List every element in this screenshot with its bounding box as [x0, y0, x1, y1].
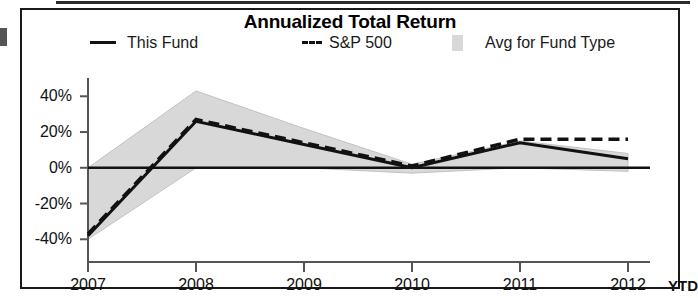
- plot-area: 40%20%0%-20%-40% 20072008200920102011201…: [22, 62, 678, 289]
- x-tick-2007: 2007: [53, 276, 123, 294]
- legend-label-sp500: S&P 500: [329, 34, 392, 52]
- x-tick-2011: 2011: [485, 276, 555, 294]
- x-tick-2010: 2010: [377, 276, 447, 294]
- ytd-label: YTD: [668, 277, 698, 294]
- y-tick-2: 0%: [10, 159, 72, 177]
- chart-header: Annualized Total Return This Fund S&P 50…: [22, 10, 678, 62]
- top-rule: [56, 1, 690, 4]
- x-tick-2012: 2012: [593, 276, 663, 294]
- y-tick-4: -40%: [10, 230, 72, 248]
- legend-label-this-fund: This Fund: [127, 34, 198, 52]
- x-tick-2009: 2009: [269, 276, 339, 294]
- legend-item-avg-fund-type: Avg for Fund Type: [452, 34, 615, 52]
- y-tick-3: -20%: [10, 195, 72, 213]
- dashed-line-icon: [302, 41, 322, 44]
- gray-square-icon: [452, 35, 463, 51]
- legend-item-this-fund: This Fund: [90, 34, 198, 52]
- chart-title: Annualized Total Return: [22, 11, 678, 33]
- legend-item-sp500: S&P 500: [302, 34, 392, 52]
- chart-frame: Annualized Total Return This Fund S&P 50…: [20, 8, 680, 289]
- solid-line-icon: [90, 41, 116, 44]
- avg-fund-type-band: [88, 91, 628, 239]
- y-tick-0: 40%: [10, 87, 72, 105]
- plot-svg: [22, 62, 678, 289]
- page-edge-mark: [0, 28, 7, 46]
- x-tick-2008: 2008: [161, 276, 231, 294]
- y-tick-1: 20%: [10, 123, 72, 141]
- legend-label-avg-fund-type: Avg for Fund Type: [485, 34, 615, 52]
